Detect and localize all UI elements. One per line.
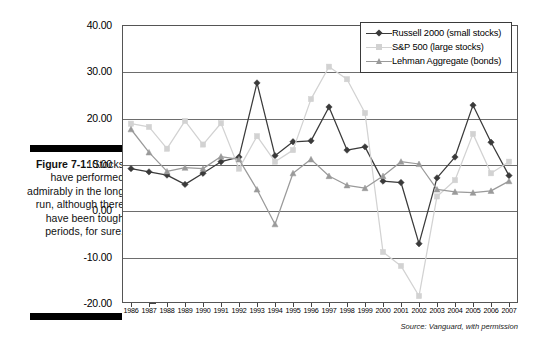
x-tick-label: 1995	[286, 306, 301, 315]
data-point-square	[254, 134, 259, 139]
y-tick-label: 40.00	[87, 19, 112, 31]
x-tick-mark	[185, 303, 186, 307]
legend-item: Lehman Aggregate (bonds)	[366, 54, 506, 68]
series-path	[131, 129, 509, 224]
data-point-diamond	[182, 181, 188, 187]
x-tick-mark	[509, 303, 510, 307]
data-point-diamond	[362, 144, 368, 150]
x-tick-label: 2007	[502, 306, 517, 315]
y-tick-label: -10.00	[83, 251, 112, 263]
data-point-square	[452, 178, 457, 183]
y-tick-label: 0.00	[92, 204, 112, 216]
legend-item: Russell 2000 (small stocks)	[366, 26, 506, 40]
x-tick-mark	[455, 303, 456, 307]
x-tick-label: 1990	[196, 306, 211, 315]
x-tick-label: 1986	[124, 306, 139, 315]
x-tick-mark	[257, 303, 258, 307]
x-tick-label: 1994	[268, 306, 283, 315]
data-point-diamond	[308, 138, 314, 144]
legend-item: S&P 500 (large stocks)	[366, 40, 506, 54]
data-point-diamond	[146, 169, 152, 175]
legend-label: Russell 2000 (small stocks)	[392, 28, 501, 38]
data-point-square	[272, 159, 277, 164]
x-tick-mark	[203, 303, 204, 307]
data-point-triangle	[254, 186, 260, 192]
x-tick-label: 1998	[340, 306, 355, 315]
x-tick-mark	[401, 303, 402, 307]
x-tick-label: 2004	[448, 306, 463, 315]
data-point-triangle	[128, 126, 134, 132]
y-tick-label: 30.00	[87, 65, 112, 77]
x-tick-label: 1992	[232, 306, 247, 315]
x-tick-mark	[437, 303, 438, 307]
x-tick-mark	[131, 303, 132, 307]
data-point-triangle	[506, 178, 512, 184]
data-point-diamond	[254, 80, 260, 86]
x-tick-mark	[311, 303, 312, 307]
legend-marker-triangle-icon	[366, 55, 392, 67]
data-point-square	[326, 64, 331, 69]
x-tick-mark	[221, 303, 222, 307]
y-axis: 40.0030.0020.0010.000.00-10.00-20.00	[34, 0, 120, 341]
x-tick-label: 1987	[142, 306, 157, 315]
data-point-square	[236, 166, 241, 171]
x-tick-mark	[239, 303, 240, 307]
x-tick-label: 2002	[412, 306, 427, 315]
series-path	[131, 83, 509, 244]
data-point-diamond	[128, 165, 134, 171]
x-tick-mark	[365, 303, 366, 307]
legend-label: Lehman Aggregate (bonds)	[392, 56, 501, 66]
x-tick-mark	[419, 303, 420, 307]
x-tick-label: 1991	[214, 306, 229, 315]
x-tick-label: 2005	[466, 306, 481, 315]
x-tick-label: 1988	[160, 306, 175, 315]
data-point-diamond	[398, 179, 404, 185]
y-tick-label: 10.00	[87, 158, 112, 170]
data-point-triangle	[308, 156, 314, 162]
data-point-diamond	[380, 178, 386, 184]
x-tick-mark	[473, 303, 474, 307]
x-tick-mark	[275, 303, 276, 307]
data-point-diamond	[218, 158, 224, 164]
y-tick-label: -20.00	[83, 297, 112, 309]
x-tick-label: 2003	[430, 306, 445, 315]
data-point-diamond	[416, 240, 422, 246]
x-tick-label: 1999	[358, 306, 373, 315]
y-tick-mark	[150, 303, 156, 304]
data-point-diamond	[344, 147, 350, 153]
series-line	[128, 64, 511, 299]
x-tick-mark	[347, 303, 348, 307]
chart-legend: Russell 2000 (small stocks)S&P 500 (larg…	[360, 22, 512, 73]
legend-marker-square-icon	[366, 41, 392, 53]
data-point-square	[380, 249, 385, 254]
data-point-square	[146, 124, 151, 129]
data-point-square	[182, 118, 187, 123]
data-point-square	[128, 121, 133, 126]
x-tick-label: 1996	[304, 306, 319, 315]
data-point-diamond	[488, 139, 494, 145]
data-point-square	[290, 148, 295, 153]
data-point-square	[398, 263, 403, 268]
x-tick-label: 1989	[178, 306, 193, 315]
x-axis: 1986198719881989199019911992199319941995…	[122, 306, 518, 322]
x-tick-mark	[167, 303, 168, 307]
x-tick-mark	[329, 303, 330, 307]
legend-marker-diamond-icon	[366, 27, 392, 39]
data-point-square	[506, 159, 511, 164]
legend-label: S&P 500 (large stocks)	[392, 42, 484, 52]
source-note: Source: Vanguard, with permission	[0, 322, 518, 331]
data-point-square	[344, 77, 349, 82]
data-point-square	[362, 110, 367, 115]
data-point-square	[470, 131, 475, 136]
data-point-square	[308, 97, 313, 102]
data-point-square	[164, 146, 169, 151]
x-tick-label: 2006	[484, 306, 499, 315]
x-tick-mark	[491, 303, 492, 307]
series-line	[128, 80, 512, 247]
x-tick-mark	[383, 303, 384, 307]
x-tick-mark	[149, 303, 150, 307]
x-tick-mark	[293, 303, 294, 307]
data-point-diamond	[326, 104, 332, 110]
data-point-square	[488, 171, 493, 176]
x-tick-label: 1997	[322, 306, 337, 315]
